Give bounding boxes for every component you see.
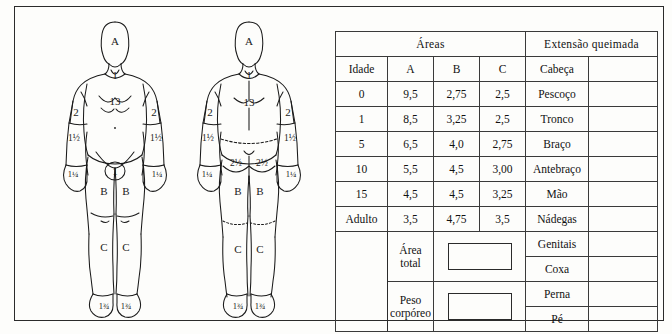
body-part-value-nadegas[interactable] — [589, 207, 658, 232]
label-posterior-leg-left: C — [234, 243, 241, 255]
label-posterior-head-a: A — [245, 35, 253, 47]
body-diagrams: A 1 13 2 2 1½ 1½ 1¼ 1¼ 1 B B C C 1¾ 1¾ — [16, 8, 322, 319]
calc-input-peso-corporeo[interactable] — [448, 293, 512, 320]
cell-b: 4,0 — [434, 132, 480, 157]
body-part-label-mao: Mão — [526, 182, 589, 207]
body-part-value-tronco[interactable] — [589, 107, 658, 132]
label-posterior-hand-right: 1¼ — [286, 169, 297, 179]
col-header-b: B — [434, 57, 480, 82]
body-part-label-antebraco: Antebraço — [526, 157, 589, 182]
label-anterior-foot-left: 1¾ — [99, 301, 110, 311]
label-posterior-upper-arm-left: 2 — [207, 106, 213, 118]
cell-b: 4,75 — [434, 207, 480, 232]
label-anterior-thigh-right: B — [122, 185, 129, 197]
body-part-label-nadegas: Nádegas — [526, 207, 589, 232]
cell-a: 9,5 — [388, 82, 434, 107]
cell-idade: 10 — [336, 157, 388, 182]
calc-field-peso-cell — [434, 282, 526, 332]
cell-b: 2,75 — [434, 82, 480, 107]
body-part-value-mao[interactable] — [589, 182, 658, 207]
col-header-a: A — [388, 57, 434, 82]
label-anterior-upper-arm-right: 2 — [151, 106, 157, 118]
body-part-value-pescoco[interactable] — [589, 82, 658, 107]
body-part-value-pe[interactable] — [589, 307, 658, 332]
cell-a: 3,5 — [388, 207, 434, 232]
burn-chart-page: A 1 13 2 2 1½ 1½ 1¼ 1¼ 1 B B C C 1¾ 1¾ — [0, 0, 672, 334]
label-anterior-upper-arm-left: 2 — [73, 106, 79, 118]
table-row: 10 5,5 4,5 3,00 Antebraço — [336, 157, 658, 182]
label-anterior-trunk: 13 — [110, 95, 122, 107]
body-part-label-pescoco: Pescoço — [526, 82, 589, 107]
cell-a: 4,5 — [388, 182, 434, 207]
calc-label-peso-line2: corpóreo — [390, 307, 431, 319]
label-anterior-forearm-left: 1½ — [68, 133, 80, 143]
body-part-label-cabeca: Cabeça — [526, 57, 589, 82]
body-part-label-tronco: Tronco — [526, 107, 589, 132]
label-posterior-thigh-left: B — [234, 185, 241, 197]
cell-b: 4,5 — [434, 157, 480, 182]
label-anterior-hand-left: 1¼ — [68, 169, 79, 179]
cell-a: 6,5 — [388, 132, 434, 157]
label-anterior-forearm-right: 1½ — [150, 133, 162, 143]
table-row: Adulto 3,5 4,75 3,5 Nádegas — [336, 207, 658, 232]
cell-idade: 15 — [336, 182, 388, 207]
body-diagrams-svg: A 1 13 2 2 1½ 1½ 1¼ 1¼ 1 B B C C 1¾ 1¾ — [16, 8, 322, 319]
label-posterior-neck: 1 — [246, 69, 252, 81]
calc-label-peso-corporeo: Peso corpóreo — [388, 282, 434, 332]
calc-input-area-total[interactable] — [448, 243, 512, 270]
label-anterior-foot-right: 1¾ — [121, 301, 132, 311]
label-posterior-forearm-left: 1½ — [202, 133, 214, 143]
cell-c: 2,75 — [480, 132, 526, 157]
body-part-value-perna[interactable] — [589, 282, 658, 307]
cell-c: 2,5 — [480, 82, 526, 107]
label-posterior-foot-right: 1¾ — [255, 301, 266, 311]
table-row: 0 9,5 2,75 2,5 Pescoço — [336, 82, 658, 107]
col-header-c: C — [480, 57, 526, 82]
cell-idade: 1 — [336, 107, 388, 132]
cell-c: 2,5 — [480, 107, 526, 132]
body-part-value-genitais[interactable] — [589, 232, 658, 257]
body-part-value-cabeca[interactable] — [589, 57, 658, 82]
label-posterior-upper-arm-right: 2 — [285, 106, 291, 118]
label-anterior-neck: 1 — [112, 69, 118, 81]
body-part-label-pe: Pé — [526, 307, 589, 332]
col-header-idade: Idade — [336, 57, 388, 82]
label-posterior-buttock-right: 2½ — [256, 158, 268, 168]
calc-area-total-row: Área total Genitais — [336, 232, 658, 257]
cell-c: 3,00 — [480, 157, 526, 182]
body-part-value-braco[interactable] — [589, 132, 658, 157]
table-group-header-row: Áreas Extensão queimada — [336, 32, 658, 57]
label-posterior-thigh-right: B — [256, 185, 263, 197]
cell-idade: 0 — [336, 82, 388, 107]
body-part-value-antebraco[interactable] — [589, 157, 658, 182]
table-row: 5 6,5 4,0 2,75 Braço — [336, 132, 658, 157]
body-part-label-braco: Braço — [526, 132, 589, 157]
cell-b: 3,25 — [434, 107, 480, 132]
cell-a: 8,5 — [388, 107, 434, 132]
label-posterior-foot-left: 1¾ — [233, 301, 244, 311]
table-row: 15 4,5 4,5 3,25 Mão — [336, 182, 658, 207]
cell-idade: Adulto — [336, 207, 388, 232]
label-posterior-hand-left: 1¼ — [202, 169, 213, 179]
calc-label-area-total-line2: total — [400, 257, 420, 269]
label-posterior-buttock-left: 2½ — [230, 158, 242, 168]
label-posterior-forearm-right: 1½ — [284, 133, 296, 143]
label-anterior-head-a: A — [111, 35, 119, 47]
calc-field-area-total-cell — [434, 232, 526, 282]
label-anterior-leg-right: C — [122, 241, 129, 253]
burn-assessment-table: Áreas Extensão queimada Idade A B C Cabe… — [335, 31, 658, 332]
table-row: 1 8,5 3,25 2,5 Tronco — [336, 107, 658, 132]
cell-idade: 5 — [336, 132, 388, 157]
calc-label-area-total-line1: Área — [399, 244, 421, 256]
label-anterior-genitals: 1 — [112, 165, 118, 177]
label-anterior-thigh-left: B — [100, 185, 107, 197]
table-column-header-row: Idade A B C Cabeça — [336, 57, 658, 82]
header-extensao-queimada: Extensão queimada — [526, 32, 658, 57]
cell-b: 4,5 — [434, 182, 480, 207]
cell-c: 3,5 — [480, 207, 526, 232]
calc-empty-gutter — [336, 232, 388, 332]
cell-c: 3,25 — [480, 182, 526, 207]
label-anterior-leg-left: C — [100, 241, 107, 253]
calc-label-area-total: Área total — [388, 232, 434, 282]
body-part-value-coxa[interactable] — [589, 257, 658, 282]
